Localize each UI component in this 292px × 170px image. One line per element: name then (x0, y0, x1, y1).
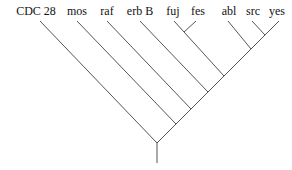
branch-erbb (140, 21, 208, 92)
branch-fuj (174, 21, 224, 76)
branch-cdc28 (40, 21, 157, 143)
branch-src (252, 21, 265, 35)
branch-abl (228, 21, 251, 49)
spine (157, 21, 279, 143)
branch-mos (77, 21, 176, 124)
tree-branches (0, 0, 292, 170)
branch-fes (184, 21, 196, 32)
